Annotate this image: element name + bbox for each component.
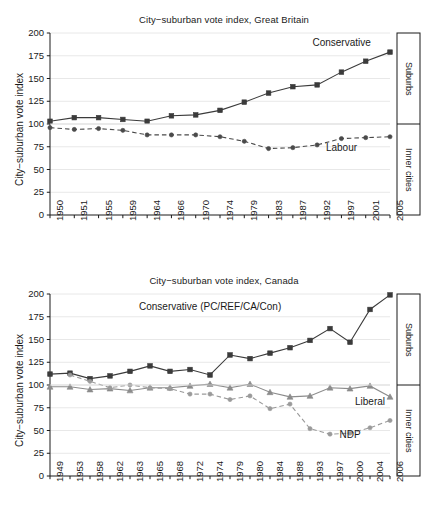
data-point: [194, 133, 198, 137]
data-point: [364, 136, 368, 140]
data-point: [242, 100, 247, 105]
y-tick-label: 0: [10, 470, 44, 481]
x-tick-label: 1992: [321, 200, 332, 221]
data-point: [228, 397, 232, 401]
x-tick-label: 1959: [127, 200, 138, 221]
data-point: [72, 115, 77, 120]
data-point: [288, 402, 292, 406]
data-point: [72, 127, 76, 131]
data-point: [145, 119, 150, 124]
x-tick-label: 2004: [374, 461, 385, 482]
data-point: [315, 143, 319, 147]
data-point: [148, 386, 152, 390]
x-tick-label: 2005: [394, 200, 405, 221]
data-point: [291, 146, 295, 150]
x-tick-label: 1963: [134, 461, 145, 482]
plot-area-great-britain: [0, 0, 448, 261]
series-3: [68, 373, 392, 436]
data-point: [121, 128, 125, 132]
x-tick-label: 1953: [74, 461, 85, 482]
x-tick-label: 1972: [194, 461, 205, 482]
data-point: [248, 394, 252, 398]
y-tick-label: 200: [10, 27, 44, 38]
data-point: [388, 135, 392, 139]
series-1: [48, 50, 393, 124]
x-tick-label: 1984: [274, 461, 285, 482]
x-tick-label: 1970: [200, 200, 211, 221]
chart-panel-canada: City−suburban vote index, Canada 0255075…: [0, 261, 448, 522]
data-point: [68, 373, 72, 377]
data-point: [188, 367, 193, 372]
data-point: [168, 387, 172, 391]
data-point: [88, 379, 92, 383]
y-tick-label: 200: [10, 288, 44, 299]
x-tick-label: 1988: [294, 461, 305, 482]
x-tick-label: 1974: [224, 200, 235, 221]
x-tick-label: 1997: [345, 200, 356, 221]
data-point: [368, 426, 372, 430]
data-point: [288, 345, 293, 350]
axes: [47, 33, 390, 218]
data-point: [348, 340, 353, 345]
y-tick-label: 25: [10, 186, 44, 197]
series-annotation: Labour: [326, 142, 357, 153]
x-tick-label: 1962: [114, 461, 125, 482]
data-point: [268, 407, 272, 411]
data-point: [367, 383, 373, 388]
series-annotation: Liberal: [355, 396, 385, 407]
x-tick-label: 1974: [214, 461, 225, 482]
x-tick-label: 1979: [234, 461, 245, 482]
data-point: [248, 356, 253, 361]
x-tick-label: 1987: [297, 200, 308, 221]
x-tick-label: 1955: [103, 200, 114, 221]
x-tick-label: 1950: [54, 200, 65, 221]
y-tick-label: 175: [10, 311, 44, 322]
series-annotation: NDP: [340, 429, 361, 440]
data-point: [218, 108, 223, 113]
data-point: [308, 427, 312, 431]
x-tick-label: 2000: [354, 461, 365, 482]
data-point: [208, 373, 213, 378]
data-point: [388, 293, 393, 298]
data-point: [388, 50, 393, 55]
data-point: [266, 91, 271, 96]
data-point: [228, 353, 233, 358]
y-axis-label: City−suburban vote index: [14, 73, 25, 186]
series-annotation: Conservative: [312, 37, 370, 48]
data-point: [48, 126, 52, 130]
side-label-inner-cities: Inner cities: [404, 148, 414, 192]
data-point: [388, 418, 392, 422]
x-tick-label: 1966: [175, 200, 186, 221]
data-point: [188, 392, 192, 396]
x-tick-label: 2001: [370, 200, 381, 221]
x-tick-label: 1983: [273, 200, 284, 221]
figure-root: City−suburban vote index, Great Britain …: [0, 0, 448, 522]
data-point: [145, 133, 149, 137]
x-tick-label: 1979: [248, 200, 259, 221]
data-point: [328, 326, 333, 331]
data-point: [387, 394, 393, 399]
data-point: [108, 374, 113, 379]
data-point: [96, 126, 100, 130]
x-tick-label: 1949: [54, 461, 65, 482]
data-point: [368, 307, 373, 312]
chart-panel-great-britain: City−suburban vote index, Great Britain …: [0, 0, 448, 261]
data-point: [121, 117, 126, 122]
side-label-inner-cities: Inner cities: [404, 409, 414, 453]
x-tick-label: 1964: [151, 200, 162, 221]
data-point: [96, 115, 101, 120]
x-tick-label: 1951: [78, 200, 89, 221]
y-tick-label: 0: [10, 209, 44, 220]
data-point: [193, 113, 198, 118]
side-label-suburbs: Suburbs: [404, 62, 414, 96]
data-point: [169, 114, 174, 119]
data-point: [291, 84, 296, 89]
x-tick-label: 1993: [314, 461, 325, 482]
series-line: [50, 384, 390, 397]
data-point: [48, 119, 53, 124]
x-tick-label: 2006: [394, 461, 405, 482]
data-point: [308, 338, 313, 343]
axes: [47, 294, 390, 479]
data-point: [218, 135, 222, 139]
data-point: [315, 83, 320, 88]
